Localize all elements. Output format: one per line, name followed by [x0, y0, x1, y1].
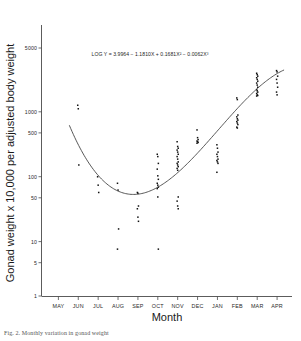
data-point: [237, 124, 239, 126]
data-point: [217, 147, 219, 149]
data-point: [217, 156, 219, 158]
data-point: [236, 121, 238, 123]
data-point: [236, 97, 238, 99]
data-point: [216, 172, 218, 174]
data-point: [177, 166, 179, 168]
data-point: [196, 142, 198, 144]
data-point: [177, 205, 179, 207]
data-point: [158, 248, 160, 250]
data-point: [256, 93, 258, 95]
data-point: [137, 216, 139, 218]
y-tick-label: 10: [31, 239, 37, 245]
data-point: [257, 80, 259, 82]
y-axis-title: Gonad weight x 10,000 per adjusted body …: [4, 44, 16, 283]
data-point: [277, 86, 279, 88]
x-tick-label: JAN: [212, 303, 223, 309]
data-point: [157, 183, 159, 185]
data-point: [196, 129, 198, 131]
data-point: [157, 156, 159, 158]
data-point: [216, 154, 218, 156]
figure-container: 5000 1000 500 100 50 10 5 1 MAYJUNJULAUG…: [0, 0, 301, 341]
y-tick-label: 500: [28, 130, 37, 136]
x-tick-label: NOV: [172, 303, 184, 309]
data-point: [157, 175, 159, 177]
data-point: [276, 94, 278, 96]
y-tick-label: 5: [34, 260, 37, 266]
data-point: [276, 71, 278, 73]
x-tick-label: AUG: [112, 303, 124, 309]
data-point: [177, 151, 179, 153]
y-tick-label: 50: [31, 195, 37, 201]
regression-curve: [69, 70, 284, 194]
data-point: [217, 151, 219, 153]
data-point: [256, 73, 258, 75]
data-point: [237, 114, 239, 116]
data-point: [277, 75, 279, 77]
data-point: [98, 192, 100, 194]
data-point: [257, 75, 259, 77]
data-point: [276, 91, 278, 93]
data-point: [158, 163, 160, 165]
data-point: [217, 158, 219, 160]
data-point: [97, 176, 99, 178]
x-axis-ticks: MAYJUNJULAUGSEPOCTNOVDECJANFEBMARAPR: [52, 297, 282, 309]
data-point: [177, 158, 179, 160]
data-point: [256, 77, 258, 79]
data-point: [256, 95, 258, 97]
data-point: [177, 170, 179, 172]
data-point: [138, 205, 140, 207]
data-point: [177, 154, 179, 156]
x-tick-label: APR: [271, 303, 283, 309]
data-point: [97, 184, 99, 186]
data-point: [237, 118, 239, 120]
data-point: [117, 248, 119, 250]
data-point: [216, 160, 218, 162]
data-point: [237, 99, 239, 101]
data-point: [257, 91, 259, 93]
data-point: [138, 221, 140, 223]
data-point: [237, 119, 239, 121]
x-tick-label: JUN: [73, 303, 84, 309]
data-point: [276, 79, 278, 81]
data-point: [118, 228, 120, 230]
data-point: [236, 116, 238, 118]
data-point: [197, 139, 199, 141]
x-axis-title: Month: [152, 311, 183, 323]
data-point: [78, 108, 80, 110]
data-point: [176, 163, 178, 165]
x-tick-label: MAY: [52, 303, 64, 309]
data-point: [197, 137, 199, 139]
regression-equation-label: LOG Y = 3.9964 − 1.1810X + 0.1681X² − 0.…: [92, 51, 209, 57]
x-tick-label: FEB: [232, 303, 243, 309]
data-point: [176, 156, 178, 158]
x-tick-label: SEP: [132, 303, 144, 309]
data-point: [77, 105, 79, 107]
data-point: [256, 84, 258, 86]
gonad-weight-scatter-chart: 5000 1000 500 100 50 10 5 1 MAYJUNJULAUG…: [0, 0, 301, 341]
data-point: [177, 196, 179, 198]
data-point: [216, 144, 218, 146]
data-point: [256, 90, 258, 92]
data-point: [256, 82, 258, 84]
data-point: [217, 163, 219, 165]
y-tick-label: 5000: [25, 45, 37, 51]
y-axis-ticks: 5000 1000 500 100 50 10 5 1: [25, 45, 42, 299]
data-point: [158, 179, 160, 181]
data-point: [177, 147, 179, 149]
data-point: [137, 208, 139, 210]
x-tick-label: DEC: [192, 303, 204, 309]
x-tick-label: MAR: [251, 303, 264, 309]
data-point: [176, 149, 178, 151]
data-point: [157, 196, 159, 198]
y-tick-label: 1: [34, 293, 37, 299]
data-point: [176, 200, 178, 202]
data-point: [157, 184, 159, 186]
figure-caption: Fig. 2. Monthly variation in gonad weigh…: [4, 330, 109, 336]
data-point: [176, 141, 178, 143]
data-point: [176, 168, 178, 170]
data-point: [237, 122, 239, 124]
data-point: [217, 161, 219, 163]
data-point: [177, 208, 179, 210]
data-point: [276, 70, 278, 72]
data-point: [237, 127, 239, 129]
